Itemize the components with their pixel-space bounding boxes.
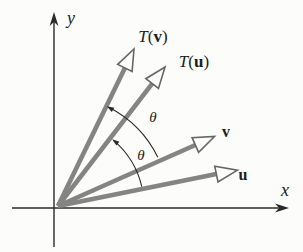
y-axis-label: y	[67, 9, 75, 27]
label-T-of-v-arg: v	[153, 27, 162, 46]
label-T-of-u: T(u)	[179, 53, 209, 70]
vector-transformation-figure: y x T(v) T(u) v u θ θ	[0, 0, 303, 252]
theta-lower-label: θ	[137, 148, 144, 163]
label-T-of-v-rparen: )	[162, 27, 168, 46]
vector-Tv-shaft	[58, 68, 125, 206]
theta-upper-label: θ	[149, 110, 156, 125]
vector-v-arrowhead-icon	[192, 137, 214, 153]
label-T-of-u-arg: u	[194, 52, 203, 71]
angle-arc-upper-arrowhead-icon	[107, 106, 115, 112]
vector-v-label: v	[222, 124, 230, 140]
vector-u-label: u	[239, 167, 248, 183]
x-axis-label: x	[281, 181, 289, 199]
vector-u-arrowhead-icon	[215, 166, 238, 182]
vector-Tv-arrowhead-icon	[118, 49, 134, 71]
label-T-of-v: T(v)	[138, 28, 167, 45]
label-T-of-u-rparen: )	[203, 52, 209, 71]
